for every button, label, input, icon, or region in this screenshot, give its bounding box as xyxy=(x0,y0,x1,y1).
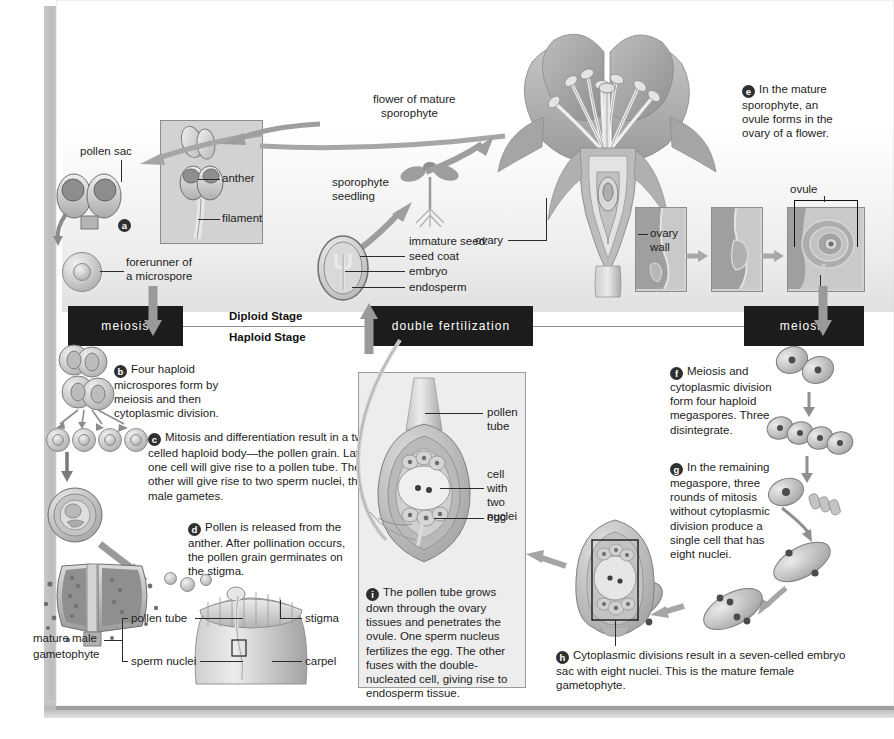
caption-badge-h: h xyxy=(556,651,569,664)
label-sporophyte-seedling-1: sporophyte xyxy=(332,176,389,190)
page-bottom-edge xyxy=(56,706,894,710)
label-embryo: embryo xyxy=(409,265,447,279)
label-sperm-nuclei: sperm nuclei xyxy=(131,655,196,669)
pollen-tube-center-leader xyxy=(425,413,483,414)
arrow-ovary-panel-2-3 xyxy=(762,248,786,264)
carpel-leader xyxy=(272,661,302,662)
microspore-4-nucleus xyxy=(130,434,142,446)
caption-badge-b: b xyxy=(114,365,127,378)
caption-badge-e: e xyxy=(742,85,755,98)
label-flower-mature-sporophyte-1: flower of mature xyxy=(373,93,455,107)
ovary-leader-v xyxy=(546,198,547,241)
caption-badge-c: c xyxy=(148,433,161,446)
label-stigma: stigma xyxy=(305,612,339,626)
mature-male-bracket-bottom xyxy=(122,661,128,662)
mature-male-bracket xyxy=(122,618,123,662)
label-seed-coat: seed coat xyxy=(409,250,459,264)
microspore-2-nucleus xyxy=(78,434,90,446)
caption-f-text: Meiosis and cytoplasmic division form fo… xyxy=(670,365,772,436)
four-nuclei-megaspore-illustration xyxy=(688,578,778,640)
arrow-microspore-to-pollen-grain xyxy=(58,452,76,484)
label-haploid-stage: Haploid Stage xyxy=(229,331,306,343)
cell-two-nuclei-leader xyxy=(440,488,484,489)
ovary-leader-h xyxy=(508,240,546,241)
arrow-embryo-sac-to-center xyxy=(520,546,570,576)
pollen-grain-illustration xyxy=(42,484,108,546)
ovary-wall-illustration-2 xyxy=(712,208,760,289)
label-pollen-tube-center-1: pollen xyxy=(487,406,518,420)
caption-i: iThe pollen tube grows down through the … xyxy=(366,585,516,700)
stage-bar-meiosis-left: meiosis xyxy=(68,306,183,346)
microspore-3-nucleus xyxy=(104,434,116,446)
caption-b-text: Four haploid microspores form by meiosis… xyxy=(114,363,219,419)
caption-g-text: In the remaining megaspore, three rounds… xyxy=(670,461,770,560)
caption-badge-i: i xyxy=(366,588,379,601)
label-diploid-stage: Diploid Stage xyxy=(229,310,302,322)
label-carpel: carpel xyxy=(305,655,336,669)
caption-g: gIn the remaining megaspore, three round… xyxy=(670,460,790,561)
label-pollen-tube-center-2: tube xyxy=(487,420,509,434)
arrow-into-meiosis-right xyxy=(812,286,834,338)
caption-b: bFour haploid microspores form by meiosi… xyxy=(114,362,236,421)
stage-divider-right xyxy=(533,326,744,327)
caption-badge-g: g xyxy=(670,463,683,476)
mature-male-bracket-top xyxy=(122,618,128,619)
caption-h: hCytoplasmic divisions result in a seven… xyxy=(556,648,852,692)
endosperm-leader xyxy=(352,287,405,288)
label-ovary: ovary xyxy=(475,234,503,248)
anther-leader xyxy=(198,179,220,180)
caption-f: fMeiosis and cytoplasmic division form f… xyxy=(670,364,790,437)
caption-e-text: In the mature sporophyte, an ovule forms… xyxy=(742,83,833,139)
stigma-leader-v xyxy=(280,600,281,619)
label-egg: egg xyxy=(487,511,506,525)
caption-badge-f: f xyxy=(670,367,683,380)
arrow-ovary-panel-1-2 xyxy=(686,248,710,264)
ovule-leader-v xyxy=(824,196,825,202)
label-ovule: ovule xyxy=(790,183,818,197)
stage-bar-double-fertilization-label: double fertilization xyxy=(392,319,511,333)
stigma-carpel-illustration xyxy=(150,580,350,690)
label-pollen-tube-bottom: pollen tube xyxy=(131,612,187,626)
mature-male-leader xyxy=(104,640,122,641)
stigma-leader-h xyxy=(280,618,302,619)
label-flower-mature-sporophyte-2: sporophyte xyxy=(381,107,438,121)
label-ovary-wall-2: wall xyxy=(650,241,670,255)
seed-coat-leader xyxy=(360,256,405,257)
label-endosperm: endosperm xyxy=(409,281,467,295)
label-cell-with-2: with xyxy=(487,482,507,496)
immature-seed-illustration xyxy=(312,234,374,302)
arrow-seedling-to-flower xyxy=(420,132,500,177)
forerunner-leader xyxy=(100,271,124,272)
egg-leader xyxy=(434,518,484,519)
stage-divider-left xyxy=(183,326,369,327)
embryo-sac-leader-v xyxy=(615,620,616,646)
microspore-1-nucleus xyxy=(52,434,64,446)
caption-h-text: Cytoplasmic divisions result in a seven-… xyxy=(556,649,845,691)
ovule-bracket xyxy=(794,200,858,247)
label-filament: filament xyxy=(222,212,262,226)
label-cell-with-3: two xyxy=(487,496,505,510)
caption-badge-d: d xyxy=(188,523,201,536)
forerunner-microspore-nucleus xyxy=(73,263,91,281)
arrow-into-meiosis-left xyxy=(142,286,164,338)
filament-leader xyxy=(198,219,220,220)
arrow-flower-to-inset xyxy=(205,118,325,154)
label-cell-with-1: cell xyxy=(487,468,504,482)
pollen-tube-bottom-leader xyxy=(195,618,243,619)
sperm-nuclei-leader xyxy=(200,661,243,662)
label-ovary-wall-1: ovary xyxy=(650,227,678,241)
ovary-wall-panel-2 xyxy=(711,207,763,292)
caption-i-text: The pollen tube grows down through the o… xyxy=(366,586,507,699)
label-forerunner-microspore-2: a microspore xyxy=(126,270,192,284)
embryo-leader xyxy=(345,271,405,272)
pollen-sac-illustration xyxy=(48,168,138,248)
label-mature-male-1: mature male xyxy=(33,632,97,646)
figure-page: anther filament a pollen sac forerunner … xyxy=(0,0,894,739)
label-mature-male-2: gametophyte xyxy=(33,648,100,662)
label-forerunner-microspore-1: forerunner of xyxy=(126,256,192,270)
stage-bar-meiosis-right: meiosis xyxy=(744,306,864,346)
caption-e: eIn the mature sporophyte, an ovule form… xyxy=(742,82,846,141)
ovary-wall-leader xyxy=(638,234,648,235)
